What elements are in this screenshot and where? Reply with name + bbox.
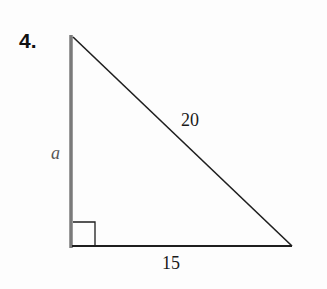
- label-hypotenuse: 20: [181, 110, 199, 131]
- right-angle-marker: [73, 222, 95, 246]
- label-base: 15: [162, 253, 180, 274]
- hypotenuse: [73, 37, 292, 246]
- right-triangle-diagram: [0, 0, 327, 289]
- label-side-a: a: [51, 143, 60, 164]
- figure-canvas: 4. a 20 15: [0, 0, 327, 289]
